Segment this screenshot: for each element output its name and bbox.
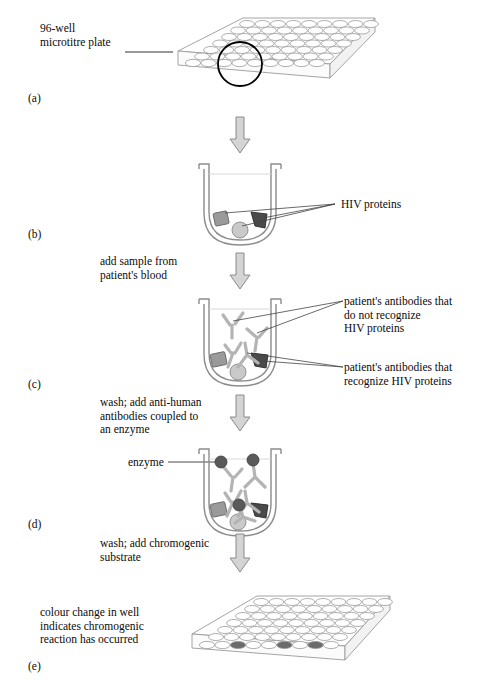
hiv-protein-shapes [213, 211, 267, 238]
enzyme-dot-1 [215, 456, 227, 468]
flow-arrow-4 [228, 534, 252, 574]
positive-well [308, 641, 323, 648]
hiv-protein-circle [232, 222, 248, 238]
free-antibody-2 [247, 328, 267, 351]
panel-label-e: (e) [28, 660, 41, 672]
enzyme-dot-2 [247, 454, 259, 466]
panel-label-b: (b) [28, 228, 41, 240]
panel-label-a: (a) [28, 92, 41, 104]
step-3-text: wash; add chromogenic substrate [100, 537, 209, 564]
positive-well [277, 641, 292, 648]
enzyme-dot-3 [233, 499, 245, 511]
callout-antibodies-recognize: patient's antibodies that recognize HIV … [344, 361, 452, 388]
positive-well [230, 641, 245, 648]
secondary-antibody-2 [245, 463, 265, 487]
flow-arrow-1 [228, 117, 252, 155]
callout-hiv-proteins: HIV proteins [341, 198, 401, 212]
secondary-antibody-1 [222, 465, 242, 491]
well-grid-front-row [199, 641, 338, 648]
flow-arrow-2 [228, 253, 252, 291]
step-1-text: add sample from patient's blood [100, 255, 177, 282]
panel-e-graphic [160, 588, 410, 688]
panel-label-d: (d) [28, 518, 41, 530]
hiv-protein-square [210, 351, 227, 367]
panel-d-well [185, 445, 325, 545]
callout-plate-label: 96-well microtitre plate [40, 22, 111, 49]
hiv-protein-square [210, 501, 227, 517]
panel-label-c: (c) [28, 378, 41, 390]
callout-antibodies-no-recognize: patient's antibodies that do not recogni… [344, 295, 452, 336]
callout-enzyme: enzyme [128, 456, 164, 470]
panel-b-well [185, 160, 315, 255]
step-2-text: wash; add anti-human antibodies coupled … [100, 396, 202, 437]
well-grid [185, 21, 378, 67]
panel-a-graphic [125, 12, 385, 122]
callout-colour-change: colour change in well indicates chromoge… [40, 606, 144, 647]
free-antibody-1 [223, 313, 243, 338]
flow-arrow-3 [228, 395, 252, 433]
elisa-figure: (a) 96-well microtitre plate [0, 0, 492, 694]
hiv-protein-triangle [251, 212, 267, 228]
panel-c-well [185, 295, 315, 395]
